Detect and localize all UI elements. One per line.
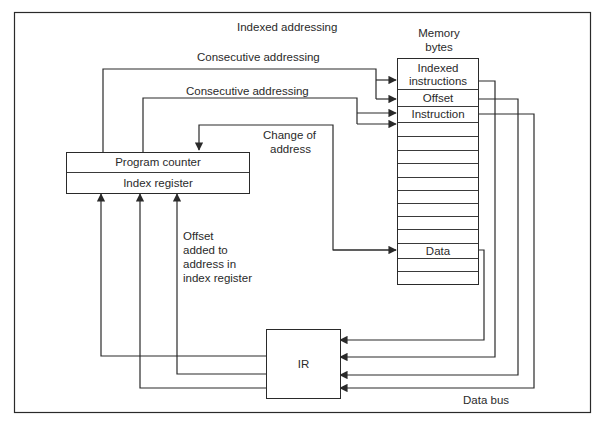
label-data-bus: Data bus	[463, 393, 509, 407]
memory-row-empty	[398, 217, 478, 230]
memory-row-empty	[398, 178, 478, 191]
label-indexed-addressing: Indexed addressing	[237, 20, 337, 34]
memory-row-empty	[398, 151, 478, 164]
program-counter: Program counter	[67, 153, 249, 173]
instruction-register: IR	[266, 329, 341, 399]
memory-row-indexed-instructions: Indexed instructions	[398, 59, 478, 90]
offset-note-line-2: added to	[183, 243, 228, 257]
memory-title-2: bytes	[409, 40, 469, 54]
label-consecutive-addressing-1: Consecutive addressing	[197, 50, 320, 64]
label-consecutive-addressing-2: Consecutive addressing	[186, 84, 309, 98]
memory-row-data: Data	[398, 244, 478, 259]
memory-row-empty	[398, 272, 478, 284]
index-register: Index register	[67, 173, 249, 193]
memory-row-offset: Offset	[398, 90, 478, 107]
memory-row-empty	[398, 137, 478, 151]
memory-row-empty	[398, 259, 478, 272]
memory-title-1: Memory	[409, 26, 469, 40]
memory-bytes: Indexed instructions Offset Instruction …	[397, 58, 479, 285]
memory-row-empty	[398, 204, 478, 217]
memory-row-label: Indexed	[398, 62, 478, 75]
label-change-of-address-2: address	[270, 142, 311, 156]
memory-row-empty	[398, 123, 478, 137]
offset-note-line-4: index register	[183, 271, 252, 285]
memory-row-empty	[398, 230, 478, 244]
offset-note-line-3: address in	[183, 257, 236, 271]
memory-row-label: instructions	[398, 75, 478, 88]
register-block: Program counter Index register	[66, 152, 250, 194]
memory-row-empty	[398, 191, 478, 204]
memory-row-empty	[398, 164, 478, 178]
memory-row-instruction: Instruction	[398, 107, 478, 123]
offset-note-line-1: Offset	[183, 229, 213, 243]
label-change-of-address-1: Change of	[263, 128, 316, 142]
